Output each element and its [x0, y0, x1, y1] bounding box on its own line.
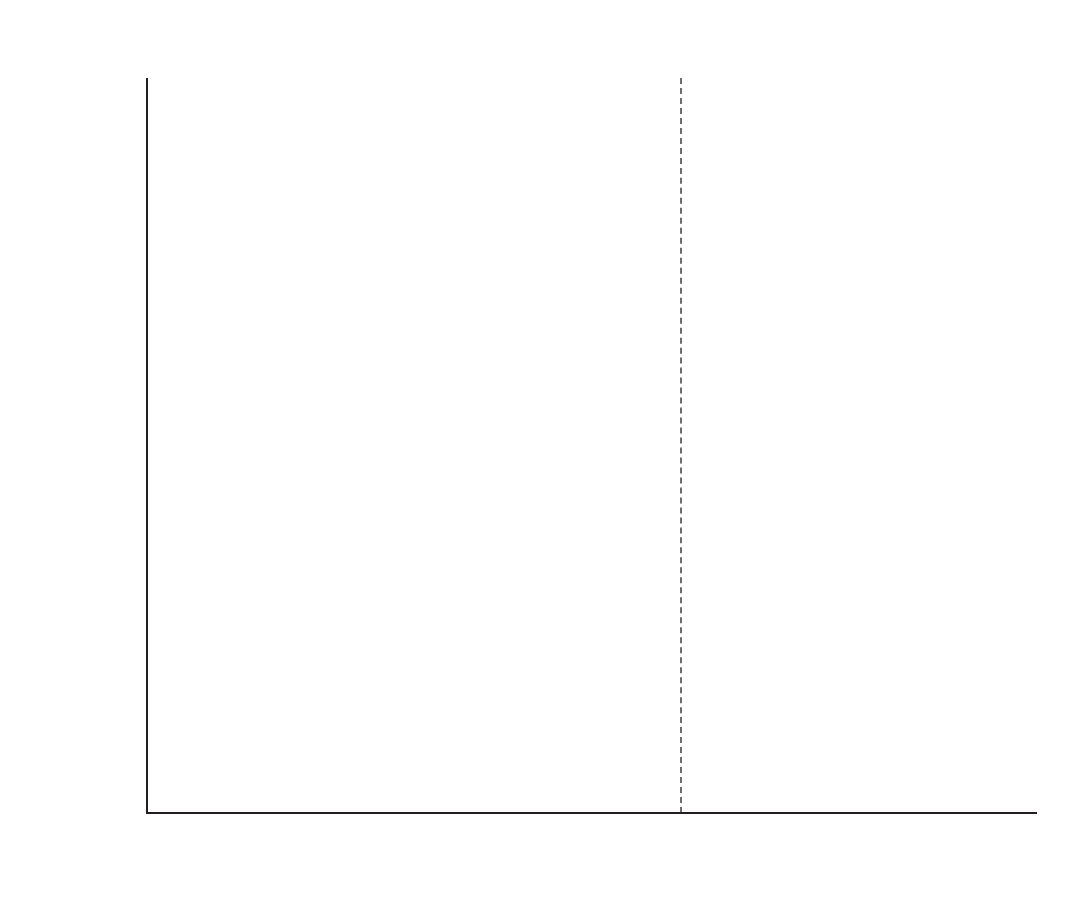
plot-area: [147, 78, 1036, 812]
y-axis-tick-labels: [0, 0, 132, 912]
chart-figure: [0, 0, 1092, 912]
y-axis-line: [146, 78, 148, 813]
zero-axis-dashed-line: [680, 78, 682, 813]
x-axis-line: [146, 812, 1037, 814]
